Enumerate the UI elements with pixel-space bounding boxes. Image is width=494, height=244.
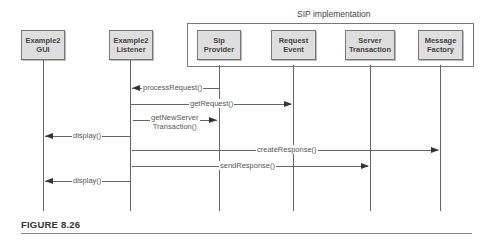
arrowhead-right-icon [361, 163, 369, 169]
lifeline-message-factory [440, 65, 441, 211]
object-request-event: Request Event [271, 30, 316, 60]
object-server-transaction: Server Transaction [345, 30, 395, 60]
message-label-process-request: processRequest() [142, 83, 203, 92]
arrowhead-left-icon [45, 178, 53, 184]
frame-title: SIP implementation [297, 9, 371, 19]
message-label-send-response: sendResponse() [219, 161, 276, 170]
object-message-factory: Message Factory [418, 30, 463, 60]
lifeline-request-event [293, 65, 294, 211]
lifeline-server-transaction [370, 65, 371, 211]
lifeline-sip-provider [219, 65, 220, 211]
arrowhead-right-icon [431, 147, 439, 153]
arrowhead-right-icon [284, 101, 292, 107]
lifeline-gui [43, 60, 44, 211]
lifeline-listener [130, 60, 131, 211]
arrowhead-right-icon [209, 117, 217, 123]
caption-rule [21, 233, 472, 234]
arrowhead-left-icon [45, 133, 53, 139]
message-label-get-new-server-transaction: getNewServer Transaction() [150, 113, 200, 131]
figure-caption: FIGURE 8.26 [21, 219, 80, 230]
message-label-display: display() [72, 131, 102, 140]
message-label-get-request: getRequest() [189, 99, 234, 108]
arrowhead-left-icon [132, 85, 140, 91]
object-example2-listener: Example2 Listener [109, 30, 153, 60]
object-sip-provider: Sip Provider [197, 30, 241, 60]
message-label-display-2: display() [72, 176, 102, 185]
message-label-create-response: createResponse() [256, 145, 318, 154]
object-example2-gui: Example2 GUI [21, 30, 65, 60]
